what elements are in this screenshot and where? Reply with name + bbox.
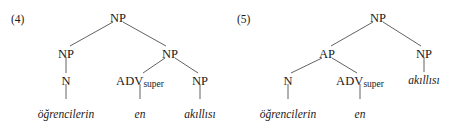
edge-right-np-to-inner-np bbox=[175, 58, 198, 73]
edge-root-to-left-np bbox=[70, 22, 113, 46]
example-number-4: (4) bbox=[11, 14, 24, 26]
tree-5-node-right-np: NP bbox=[416, 48, 432, 61]
tree-5-adv-subscript: super bbox=[363, 79, 384, 89]
tree-4-node-right-np: NP bbox=[162, 48, 178, 61]
tree-4-adv-subscript: super bbox=[143, 79, 164, 89]
tree-5-adv-label: ADV bbox=[336, 74, 363, 88]
tree-4-node-inner-np: NP bbox=[192, 75, 208, 88]
tree-5-node-n: N bbox=[283, 75, 292, 88]
tree-5-terminal-ogrencilerin: öğrencilerin bbox=[260, 109, 316, 121]
edge-root-to-ap bbox=[331, 22, 373, 46]
tree-4-terminal-en: en bbox=[135, 109, 146, 121]
tree-5-node-adv-super: ADVsuper bbox=[336, 75, 384, 88]
edge-ap-to-n bbox=[291, 58, 322, 73]
tree-4-node-root-np: NP bbox=[110, 12, 126, 25]
tree-4-node-adv-super: ADVsuper bbox=[116, 75, 164, 88]
edge-ap-to-adv bbox=[332, 58, 357, 73]
syntax-tree-figure: (4) NP NP NP N ADVsuper NP öğrencilerin … bbox=[0, 0, 459, 135]
tree-5-terminal-en: en bbox=[355, 109, 366, 121]
tree-4-terminal-ogrencilerin: öğrencilerin bbox=[38, 109, 94, 121]
tree-4-terminal-akillisi: akıllısı bbox=[184, 109, 215, 121]
tree-4-node-n: N bbox=[61, 75, 70, 88]
tree-5-terminal-akillisi: akıllısı bbox=[408, 75, 439, 87]
example-number-5: (5) bbox=[237, 14, 250, 26]
edge-root-to-right-np bbox=[383, 22, 421, 46]
tree-5-node-ap: AP bbox=[319, 48, 335, 61]
tree-4-node-left-np: NP bbox=[58, 48, 74, 61]
tree-diagram-5: (5) NP AP NP N ADVsuper akıllısı öğrenci… bbox=[229, 0, 459, 135]
tree-diagram-4: (4) NP NP NP N ADVsuper NP öğrencilerin … bbox=[0, 0, 229, 135]
edge-root-to-right-np bbox=[123, 22, 166, 46]
tree-5-node-root-np: NP bbox=[370, 12, 386, 25]
tree-4-adv-label: ADV bbox=[116, 74, 143, 88]
